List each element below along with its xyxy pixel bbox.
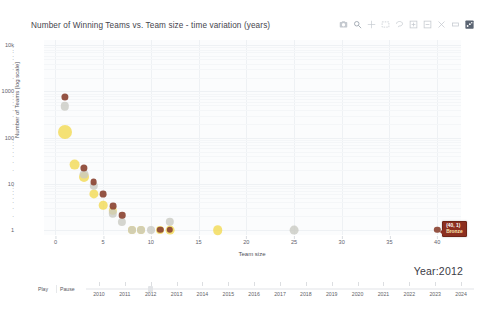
slider-step-mark <box>461 282 462 286</box>
slider-step-mark <box>228 282 229 286</box>
gridline-horizontal <box>44 138 461 139</box>
scatter-point[interactable] <box>128 226 136 234</box>
gridline-horizontal <box>44 45 461 46</box>
tooltip-series-label: Bronze <box>446 229 463 235</box>
slider-step-mark <box>383 282 384 286</box>
gridline-horizontal-minor <box>44 188 461 189</box>
y-tick-label-minor: · <box>12 44 14 50</box>
slider-step-label: 2013 <box>171 291 183 297</box>
scatter-point[interactable] <box>147 226 155 234</box>
x-tick-label: 20 <box>243 239 249 245</box>
scatter-point[interactable] <box>90 179 97 186</box>
gridline-horizontal-minor <box>44 148 461 149</box>
gridline-horizontal-minor <box>44 162 461 163</box>
tooltip-arrow <box>440 229 443 235</box>
camera-icon[interactable] <box>337 19 349 31</box>
y-tick-label-minor: · <box>12 167 14 173</box>
slider-button-divider <box>56 285 57 293</box>
x-tick-label: 15 <box>195 239 201 245</box>
slider-step-mark <box>306 282 307 286</box>
reset-axes-icon[interactable] <box>449 19 461 31</box>
slider-step-label: 2018 <box>300 291 312 297</box>
plot-area[interactable]: (40, 1) Bronze <box>44 40 461 235</box>
gridline-horizontal-minor <box>44 69 461 70</box>
x-tick-label: 10 <box>148 239 154 245</box>
pan-icon[interactable] <box>365 19 377 31</box>
gridline-horizontal-minor <box>44 64 461 65</box>
slider-step-label: 2016 <box>248 291 260 297</box>
x-tick-label: 30 <box>339 239 345 245</box>
slider-step-mark <box>202 282 203 286</box>
gridline-horizontal-minor <box>44 116 461 117</box>
slider-step-label: 2017 <box>274 291 286 297</box>
slider-step-mark <box>280 282 281 286</box>
gridline-horizontal-minor <box>44 94 461 95</box>
slider-step-label: 2012 <box>145 291 157 297</box>
y-tick-label-minor: · <box>12 205 14 211</box>
y-tick-label-minor: · <box>12 213 14 219</box>
gridline-horizontal-minor <box>44 59 461 60</box>
zoom-in-icon[interactable] <box>407 19 419 31</box>
play-button[interactable]: Play <box>38 286 48 292</box>
gridline-horizontal-minor <box>44 52 461 53</box>
gridline-horizontal-minor <box>44 186 461 187</box>
scatter-point[interactable] <box>118 218 126 226</box>
slider-track[interactable] <box>86 288 474 290</box>
gridline-horizontal-minor <box>44 198 461 199</box>
y-axis-title: Number of Teams [log scale] <box>14 62 20 138</box>
gridline-horizontal-minor <box>44 102 461 103</box>
scatter-point[interactable] <box>69 159 80 170</box>
scatter-point[interactable] <box>58 125 72 139</box>
zoom-out-icon[interactable] <box>421 19 433 31</box>
scatter-point[interactable] <box>119 212 126 219</box>
x-tick-label: 0 <box>54 239 57 245</box>
x-tick-mark <box>342 236 343 239</box>
zoom-box-icon[interactable] <box>351 19 363 31</box>
year-annotation: Year:2012 <box>414 265 463 277</box>
lasso-select-icon[interactable] <box>393 19 405 31</box>
gridline-horizontal-minor <box>44 216 461 217</box>
gridline-horizontal-minor <box>44 99 461 100</box>
x-tick-label: 35 <box>386 239 392 245</box>
scatter-point[interactable] <box>109 203 116 210</box>
slider-step-label: 2011 <box>119 291 130 297</box>
chart-title: Number of Winning Teams vs. Team size - … <box>31 21 270 30</box>
plotly-logo-icon[interactable] <box>463 19 475 31</box>
slider-step-label: 2020 <box>352 291 364 297</box>
slider-step-mark <box>125 282 126 286</box>
y-tick-label-minor: · <box>12 159 14 165</box>
x-tick-label: 40 <box>434 239 440 245</box>
plotly-modebar[interactable] <box>337 18 475 31</box>
slider-step-mark <box>99 282 100 286</box>
slider-step-label: 2015 <box>222 291 234 297</box>
slider-step-mark <box>332 282 333 286</box>
x-tick-mark <box>294 236 295 239</box>
gridline-horizontal-minor <box>44 47 461 48</box>
box-select-icon[interactable] <box>379 19 391 31</box>
x-axis-ticks: 0510152025303540 <box>44 239 461 249</box>
autoscale-icon[interactable] <box>435 19 447 31</box>
gridline-horizontal <box>44 91 461 92</box>
scatter-point[interactable] <box>166 218 174 226</box>
gridline-horizontal-minor <box>44 78 461 79</box>
scatter-point[interactable] <box>213 225 223 235</box>
x-tick-mark <box>199 236 200 239</box>
slider-step-mark <box>435 282 436 286</box>
scatter-point[interactable] <box>290 226 299 235</box>
slider-step-label: 2024 <box>455 291 467 297</box>
gridline-horizontal <box>44 230 461 231</box>
gridline-horizontal <box>44 184 461 185</box>
y-tick-label-minor: · <box>12 183 14 189</box>
scatter-point[interactable] <box>137 226 145 234</box>
x-tick-label: 25 <box>291 239 297 245</box>
animation-slider[interactable]: Play Pause 20102011201220132014201520162… <box>38 286 476 312</box>
gridline-horizontal-minor <box>44 110 461 111</box>
pause-button[interactable]: Pause <box>60 286 75 292</box>
scatter-point[interactable] <box>100 191 107 198</box>
gridline-horizontal-minor <box>44 96 461 97</box>
slider-step-mark <box>177 282 178 286</box>
slider-step-label: 2010 <box>93 291 105 297</box>
x-tick-mark <box>55 236 56 239</box>
gridline-horizontal-minor <box>44 105 461 106</box>
scatter-point[interactable] <box>99 201 108 210</box>
